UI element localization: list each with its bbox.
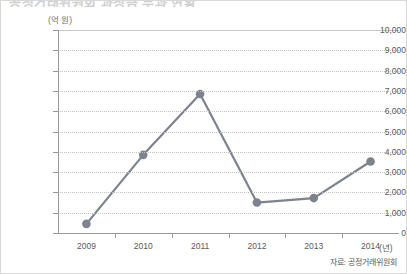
y-axis-tick xyxy=(53,50,59,51)
y-axis-tick-label: 10,000 xyxy=(358,25,406,35)
x-axis-tick-label: 2011 xyxy=(191,241,209,251)
data-line xyxy=(86,94,370,224)
source-note: 자료: 공정거래위원회 xyxy=(330,256,397,267)
y-axis-tick xyxy=(53,192,59,193)
x-axis-tick-label: 2009 xyxy=(77,241,96,251)
y-axis-tick-label: 7,000 xyxy=(358,86,406,96)
x-axis-tick xyxy=(342,233,343,238)
x-axis-tick xyxy=(285,233,286,238)
y-axis-tick xyxy=(53,111,59,112)
gridline xyxy=(58,30,399,31)
x-axis-tick-label: 2010 xyxy=(134,241,153,251)
y-axis-tick-label: 0 xyxy=(358,228,406,238)
y-axis-tick-label: 9,000 xyxy=(358,45,406,55)
y-axis-tick-label: 4,000 xyxy=(358,147,406,157)
x-axis-tick xyxy=(172,233,173,238)
data-point-2012 xyxy=(253,198,262,207)
x-axis-tick xyxy=(229,233,230,238)
gridline xyxy=(58,71,399,72)
y-axis-tick-label: 5,000 xyxy=(358,127,406,137)
data-point-2013 xyxy=(309,194,318,203)
y-axis-tick-label: 1,000 xyxy=(358,208,406,218)
gridline xyxy=(58,50,399,51)
series-layer xyxy=(1,1,407,274)
y-axis-tick xyxy=(53,132,59,133)
chart-figure: 공정거래위원회 과징금 부과 현황 (억 원) (년) 자료: 공정거래위원회 … xyxy=(0,0,407,274)
x-axis-unit-label: (년) xyxy=(379,241,393,253)
x-axis-tick-label: 2012 xyxy=(247,241,266,251)
y-axis-tick xyxy=(53,233,59,234)
data-point-2009 xyxy=(82,220,91,229)
gridline xyxy=(58,152,399,153)
y-axis-tick-label: 6,000 xyxy=(358,106,406,116)
y-axis-tick xyxy=(53,71,59,72)
gridline xyxy=(58,111,399,112)
y-axis-tick xyxy=(53,91,59,92)
gridline xyxy=(58,192,399,193)
y-axis-tick-label: 3,000 xyxy=(358,167,406,177)
gridline xyxy=(58,132,399,133)
x-axis-tick-label: 2013 xyxy=(304,241,323,251)
y-axis-tick xyxy=(53,152,59,153)
gridline xyxy=(58,172,399,173)
y-axis-tick-label: 2,000 xyxy=(358,187,406,197)
y-axis-tick-label: 8,000 xyxy=(358,66,406,76)
y-axis-tick xyxy=(53,172,59,173)
gridline xyxy=(58,91,399,92)
y-axis-tick xyxy=(53,30,59,31)
x-axis-tick-label: 2014 xyxy=(361,241,380,251)
gridline xyxy=(58,213,399,214)
x-axis-tick xyxy=(115,233,116,238)
data-point-2014 xyxy=(366,157,375,166)
y-axis-tick xyxy=(53,213,59,214)
